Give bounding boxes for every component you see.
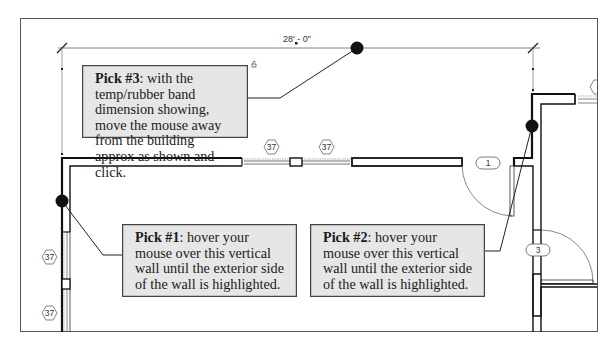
window-tag[interactable]: 37 <box>42 306 57 320</box>
leader-line-pick3 <box>247 48 357 98</box>
dimension-label[interactable]: 28' - 0" <box>283 34 311 44</box>
callout-pick3: Pick #3: with the temp/rubber band dimen… <box>82 65 248 138</box>
door-tag[interactable]: 3 <box>526 244 550 256</box>
pick2-point-marker[interactable] <box>526 120 539 133</box>
floor-plan-canvas: 37 37 37 37 1 3 <box>0 0 614 352</box>
window-tag[interactable]: 37 <box>264 140 279 154</box>
svg-text:37: 37 <box>267 142 277 152</box>
svg-text:37: 37 <box>45 252 55 262</box>
door-3-swing <box>541 230 593 282</box>
window-mullion-left <box>62 279 70 289</box>
pick3-point-marker[interactable] <box>351 42 364 55</box>
callout-pick2: Pick #2: hover your mouse over this vert… <box>310 224 485 297</box>
window-top-2[interactable] <box>302 159 352 164</box>
leader-line-pick1 <box>62 201 122 255</box>
floor-plan-diagram: 37 37 37 37 1 3 <box>0 0 614 352</box>
window-tag[interactable]: 37 <box>42 250 57 264</box>
window-top-1[interactable] <box>242 159 290 164</box>
door-tag[interactable]: 1 <box>476 157 500 169</box>
window-tag[interactable]: 37 <box>319 140 334 154</box>
window-tag-partial[interactable] <box>590 80 597 94</box>
callout-title: Pick #1 <box>135 229 180 245</box>
left-exterior-wall[interactable] <box>62 232 70 332</box>
callout-text: : with the temp/rubber band dimension sh… <box>95 70 221 180</box>
svg-text:1: 1 <box>486 158 491 168</box>
svg-text:37: 37 <box>45 308 55 318</box>
callout-pick1: Pick #1: hover your mouse over this vert… <box>122 224 297 297</box>
door-3-leaf <box>541 280 593 284</box>
leader-line-pick2 <box>484 126 532 251</box>
pick1-point-marker[interactable] <box>56 195 69 208</box>
callout-title: Pick #3 <box>95 70 140 86</box>
svg-text:3: 3 <box>536 245 541 255</box>
door-1[interactable] <box>462 166 514 216</box>
callout-title: Pick #2 <box>323 229 368 245</box>
window-mullion <box>290 158 302 166</box>
dimension-lock-icon[interactable] <box>252 61 256 67</box>
svg-text:37: 37 <box>322 142 332 152</box>
